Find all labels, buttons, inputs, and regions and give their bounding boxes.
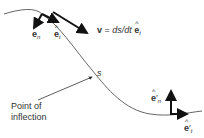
label-e-n-prime: ^e′n xyxy=(151,94,161,104)
label-e-n: ^en xyxy=(32,30,40,40)
label-e-t: ^et xyxy=(54,30,61,40)
label-velocity-equation: v = ds/dt ^et xyxy=(97,26,141,36)
inflection-pointer-arrow xyxy=(38,77,92,100)
label-arc-length-s: s xyxy=(97,69,102,78)
label-point-of-inflection: Point of inflection xyxy=(11,101,47,123)
label-e-t-prime: ^e′t xyxy=(184,124,192,134)
